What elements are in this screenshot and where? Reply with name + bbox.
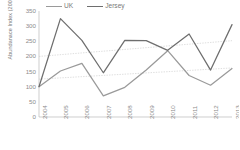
x-tick-2008: 2008 <box>127 105 133 119</box>
chart-legend: UK Jersey <box>46 3 125 10</box>
trendline-jersey <box>39 41 232 57</box>
legend-label-uk: UK <box>64 3 73 10</box>
y-tick-0: 0 <box>16 114 36 120</box>
x-tick-2004: 2004 <box>42 105 48 119</box>
x-tick-2011: 2011 <box>192 106 198 119</box>
y-tick-100: 100 <box>16 84 36 90</box>
y-tick-200: 200 <box>16 53 36 59</box>
plot-area <box>39 11 232 117</box>
y-tick-150: 150 <box>16 69 36 75</box>
x-tick-2012: 2012 <box>213 105 219 119</box>
x-tick-2006: 2006 <box>84 105 90 119</box>
legend-item-uk[interactable]: UK <box>46 3 73 10</box>
abundance-index-line-chart: Abundanace Index (2004=100) 350300250200… <box>0 0 239 150</box>
y-tick-300: 300 <box>16 23 36 29</box>
y-tick-50: 50 <box>16 99 36 105</box>
plot-svg <box>39 11 232 117</box>
y-axis-tick-labels: 350300250200150100500 <box>14 0 36 150</box>
x-tick-2005: 2005 <box>63 105 69 119</box>
x-tick-2013: 2013 <box>235 105 240 119</box>
x-axis-tick-labels: 2004200520062007200820092010201120122013 <box>39 117 232 150</box>
legend-item-jersey[interactable]: Jersey <box>87 3 124 10</box>
legend-swatch-jersey-icon <box>87 6 103 7</box>
y-tick-350: 350 <box>16 8 36 14</box>
trendline-uk <box>39 68 232 79</box>
x-tick-2009: 2009 <box>149 105 155 119</box>
x-tick-2007: 2007 <box>106 105 112 119</box>
series-line-jersey <box>39 19 232 87</box>
y-tick-250: 250 <box>16 38 36 44</box>
legend-swatch-uk-icon <box>46 6 62 7</box>
y-axis-title: Abundanace Index (2004=100) <box>7 0 13 73</box>
x-tick-2010: 2010 <box>170 105 176 119</box>
legend-label-jersey: Jersey <box>105 3 124 10</box>
